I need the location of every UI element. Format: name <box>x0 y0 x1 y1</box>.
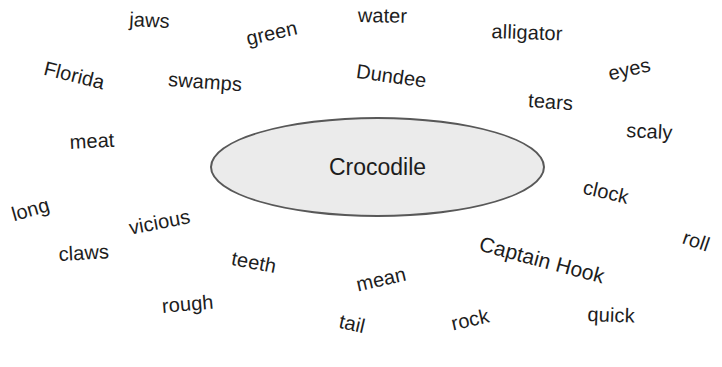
word-item[interactable]: claws <box>58 240 110 266</box>
word-item[interactable]: roll <box>680 226 713 257</box>
center-node-label: Crocodile <box>329 154 426 181</box>
word-item[interactable]: alligator <box>491 20 563 45</box>
center-node-crocodile[interactable]: Crocodile <box>210 117 545 217</box>
word-item[interactable]: Captain Hook <box>477 232 607 288</box>
word-item[interactable]: tears <box>527 89 573 115</box>
word-item[interactable]: jaws <box>129 8 171 33</box>
word-item[interactable]: Dundee <box>355 60 428 93</box>
word-item[interactable]: Florida <box>41 57 107 94</box>
word-item[interactable]: rough <box>161 290 214 317</box>
word-web-canvas: Crocodile jawsgreenwateralligatoreyesFlo… <box>0 0 722 367</box>
word-item[interactable]: rock <box>449 304 491 335</box>
word-item[interactable]: teeth <box>230 247 279 278</box>
word-item[interactable]: eyes <box>606 53 653 85</box>
word-item[interactable]: water <box>358 4 408 28</box>
word-item[interactable]: meat <box>69 129 115 154</box>
word-item[interactable]: swamps <box>167 68 242 96</box>
word-item[interactable]: tail <box>337 310 367 338</box>
word-item[interactable]: quick <box>587 303 635 328</box>
word-item[interactable]: long <box>9 193 52 226</box>
word-item[interactable]: vicious <box>127 205 192 239</box>
word-item[interactable]: clock <box>581 176 631 209</box>
word-item[interactable]: green <box>244 16 300 50</box>
word-item[interactable]: scaly <box>626 119 673 144</box>
word-item[interactable]: mean <box>354 263 408 297</box>
